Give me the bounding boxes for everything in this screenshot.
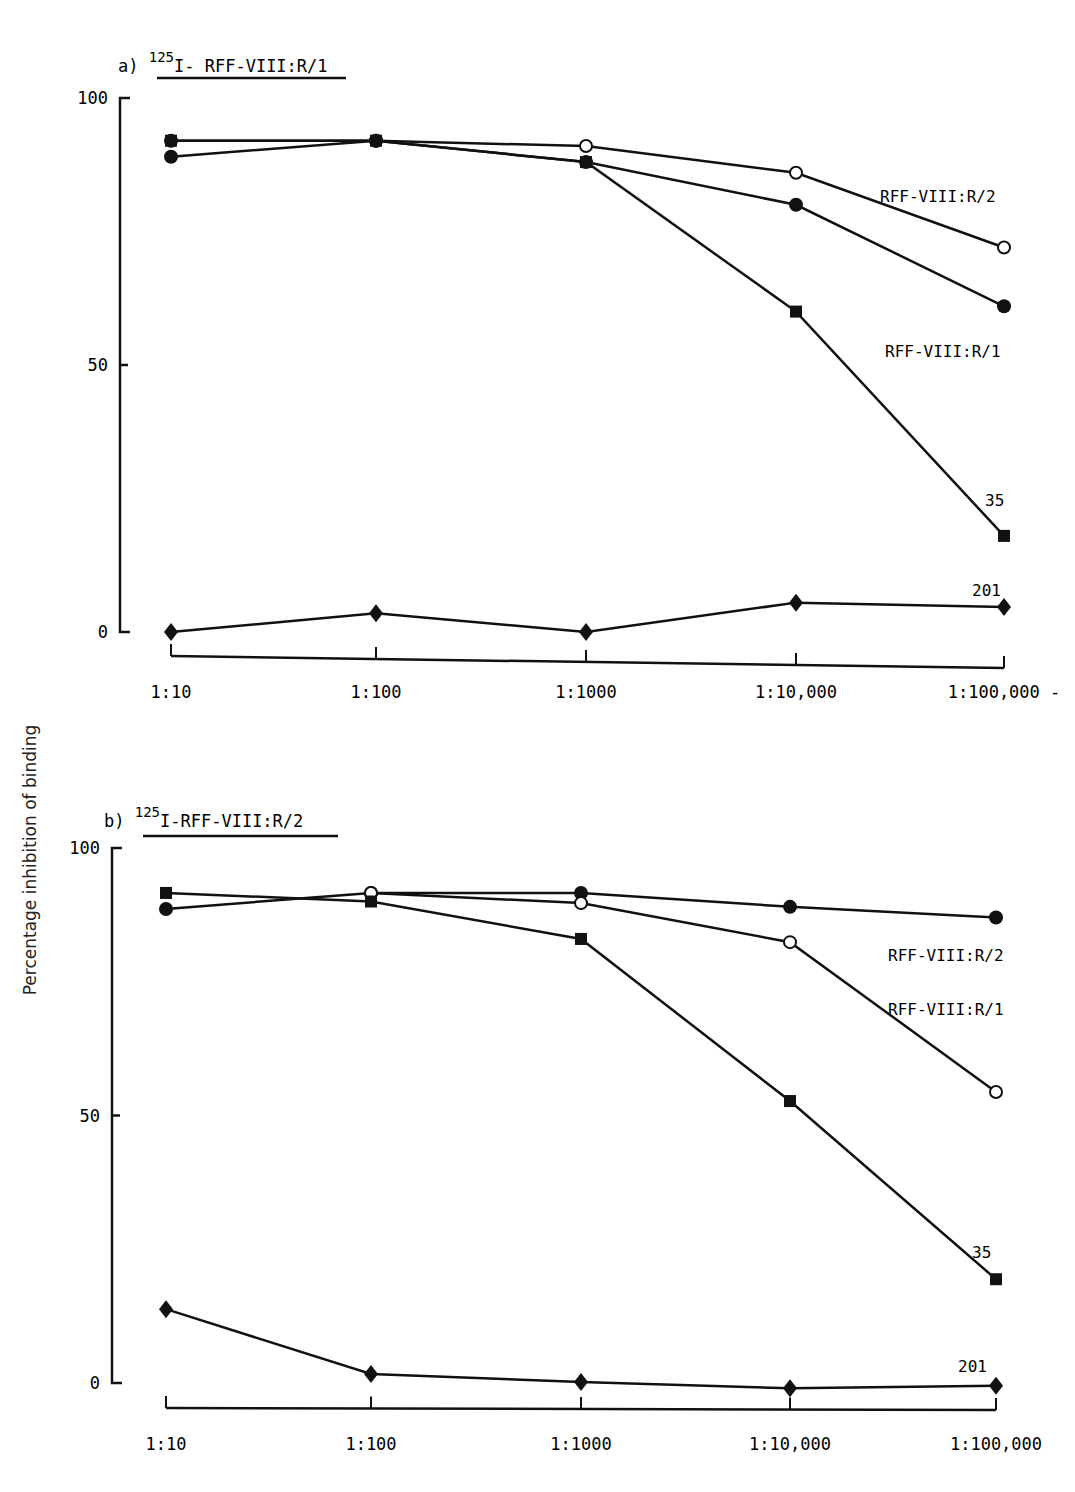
- filled-square-marker: [165, 135, 177, 147]
- y-tick-label: 100: [69, 838, 100, 858]
- open-circle-marker: [790, 167, 802, 179]
- filled-square-marker: [160, 887, 172, 899]
- filled-circle-marker: [997, 299, 1011, 313]
- series-label: 201: [958, 1357, 987, 1376]
- series-201: 201: [159, 1300, 1003, 1397]
- filled-square-marker: [580, 156, 592, 168]
- x-axis: [171, 656, 1004, 668]
- x-tick-label: 1:10,000: [749, 1434, 831, 1454]
- series-label: RFF-VIII:R/2: [888, 946, 1004, 965]
- y-tick-label: 100: [77, 88, 108, 108]
- series-label: 201: [972, 581, 1001, 600]
- series-201: 201: [164, 581, 1011, 641]
- x-tick-label: 1:10,000: [755, 682, 837, 702]
- x-tick-label: 1:10: [151, 682, 192, 702]
- y-tick-label: 50: [80, 1106, 100, 1126]
- y-tick-label: 50: [88, 355, 108, 375]
- x-tick-label: 1:100,000: [950, 1434, 1042, 1454]
- series-label: RFF-VIII:R/2: [880, 187, 996, 206]
- filled-square-marker: [790, 306, 802, 318]
- filled-square-marker: [365, 896, 377, 908]
- series-label: 35: [985, 491, 1004, 510]
- filled-circle-marker: [989, 911, 1003, 925]
- y-tick-label: 0: [98, 622, 108, 642]
- y-axis-label: Percentage inhibition of binding: [10, 660, 50, 1060]
- chart-panel-b: b) 125I-RFF-VIII:R/20501001:101:1001:100…: [69, 804, 1042, 1454]
- filled-circle-marker: [789, 198, 803, 212]
- series-label: 35: [972, 1243, 991, 1262]
- filled-diamond-marker: [579, 623, 593, 641]
- x-tick-label: 1:10: [146, 1434, 187, 1454]
- series-rff-viii-r-2: RFF-VIII:R/2: [165, 135, 1010, 254]
- x-tick-label: 1:100,000 -: [948, 682, 1061, 702]
- chart-title: b) 125I-RFF-VIII:R/2: [104, 804, 303, 831]
- filled-diamond-marker: [783, 1379, 797, 1397]
- y-axis-label-text: Percentage inhibition of binding: [20, 725, 40, 996]
- chart-title: a) 125I- RFF-VIII:R/1: [118, 49, 328, 76]
- filled-diamond-marker: [789, 594, 803, 612]
- x-tick-label: 1:1000: [550, 1434, 611, 1454]
- chart-panel-a: a) 125I- RFF-VIII:R/10501001:101:1001:10…: [77, 49, 1060, 702]
- filled-diamond-marker: [989, 1377, 1003, 1395]
- filled-diamond-marker: [369, 604, 383, 622]
- filled-diamond-marker: [164, 623, 178, 641]
- open-circle-marker: [998, 242, 1010, 254]
- filled-diamond-marker: [364, 1365, 378, 1383]
- open-circle-marker: [580, 140, 592, 152]
- filled-square-marker: [998, 530, 1010, 542]
- x-tick-label: 1:100: [350, 682, 401, 702]
- series-label: RFF-VIII:R/1: [888, 1000, 1004, 1019]
- filled-circle-marker: [164, 150, 178, 164]
- series-35: 35: [160, 887, 1002, 1285]
- y-tick-label: 0: [90, 1373, 100, 1393]
- series-label: RFF-VIII:R/1: [885, 342, 1001, 361]
- filled-diamond-marker: [159, 1300, 173, 1318]
- filled-diamond-marker: [997, 598, 1011, 616]
- open-circle-marker: [784, 936, 796, 948]
- filled-square-marker: [784, 1095, 796, 1107]
- filled-square-marker: [990, 1273, 1002, 1285]
- filled-circle-marker: [159, 902, 173, 916]
- x-tick-label: 1:100: [345, 1434, 396, 1454]
- filled-diamond-marker: [574, 1373, 588, 1391]
- open-circle-marker: [990, 1086, 1002, 1098]
- filled-circle-marker: [783, 900, 797, 914]
- filled-square-marker: [575, 933, 587, 945]
- filled-square-marker: [370, 135, 382, 147]
- open-circle-marker: [575, 897, 587, 909]
- x-tick-label: 1:1000: [555, 682, 616, 702]
- figure-canvas: a) 125I- RFF-VIII:R/10501001:101:1001:10…: [0, 0, 1075, 1492]
